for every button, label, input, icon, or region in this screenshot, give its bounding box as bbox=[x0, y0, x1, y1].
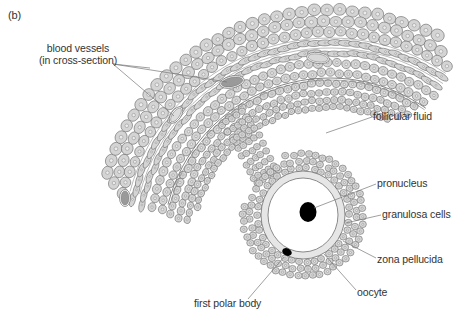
panel-label: (b) bbox=[8, 9, 21, 21]
label-blood-vessels-line2: (in cross-section) bbox=[38, 54, 118, 66]
label-pronucleus: pronucleus bbox=[377, 177, 427, 189]
label-oocyte: oocyte bbox=[357, 286, 387, 298]
label-first-polar-body: first polar body bbox=[194, 297, 261, 309]
label-follicular-fluid: follicular fluid bbox=[373, 110, 432, 122]
label-zona-pellucida: zona pellucida bbox=[377, 253, 443, 265]
label-blood-vessels: blood vessels (in cross-section) bbox=[38, 42, 118, 66]
label-granulosa-cells: granulosa cells bbox=[382, 208, 451, 220]
label-blood-vessels-line1: blood vessels bbox=[38, 42, 118, 54]
